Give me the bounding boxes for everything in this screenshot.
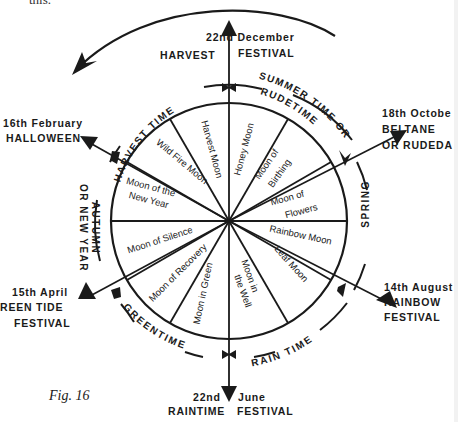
direction-arrow xyxy=(72,11,335,75)
festival-upper-right-name: BELTANE xyxy=(382,122,436,136)
festival-bottom-date-left: 22nd xyxy=(193,390,221,404)
wheel-of-year-diagram: HARVEST TIME SUMMER TIME OR RUDETIME RAI… xyxy=(0,0,458,422)
moon-green: Moon in Green xyxy=(191,261,215,325)
figure-caption: Fig. 16 xyxy=(49,388,89,404)
festival-marker-lower-left xyxy=(78,282,96,299)
festival-upper-right-date: 18th Octobe xyxy=(382,106,451,120)
festival-bottom-name-right: FESTIVAL xyxy=(237,404,293,418)
festival-lower-right-name2: FESTIVAL xyxy=(384,310,440,324)
festival-bottom-name-left: RAINTIME xyxy=(168,404,225,418)
moon-rainbow: Rainbow Moon xyxy=(269,223,333,247)
page-edge xyxy=(454,0,458,422)
festival-upper-left-date: 16th February xyxy=(3,116,83,130)
festival-upper-left-name: HALLOWEEN xyxy=(6,131,81,145)
season-rain-time: RAIN TIME xyxy=(250,333,315,369)
festival-lower-left-name: REEN TIDE xyxy=(0,300,63,314)
festival-lower-left-date: 15th April xyxy=(12,285,68,299)
top-text-fragment: this. xyxy=(29,0,51,8)
moon-wild-fire: Wild Fire Moon xyxy=(154,137,210,186)
moon-flowers-2: Flowers xyxy=(284,201,319,220)
festival-lower-right-name: RAINBOW xyxy=(384,295,441,309)
festival-top-date: 22nd December xyxy=(206,30,295,44)
moon-silence: Moon of Silence xyxy=(126,224,194,256)
wheel-svg: HARVEST TIME SUMMER TIME OR RUDETIME RAI… xyxy=(0,0,458,422)
festival-marker-upper-left xyxy=(80,136,98,150)
festival-top-name-right: FESTIVAL xyxy=(238,46,294,60)
festival-lower-left-name2: FESTIVAL xyxy=(14,316,70,330)
moon-honey: Honey Moon xyxy=(231,122,256,177)
season-spring: SPRING xyxy=(360,180,371,227)
season-autumn: AUTUMN xyxy=(90,202,101,254)
festival-lower-right-date: 14th August xyxy=(384,280,453,294)
season-autumn-line2: OR NEW YEAR xyxy=(78,184,89,272)
festival-top-name-left: HARVEST xyxy=(160,48,216,62)
festival-upper-right-name2: OR RUDEDA xyxy=(382,138,453,152)
festival-bottom-date-right: June xyxy=(238,390,266,404)
moon-leaf: Leaf Moon xyxy=(272,243,310,284)
moon-harvest: Harvest Moon xyxy=(199,119,225,179)
festival-marker-bottom xyxy=(221,386,237,402)
